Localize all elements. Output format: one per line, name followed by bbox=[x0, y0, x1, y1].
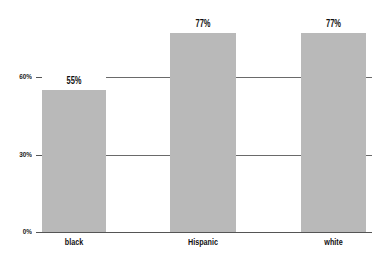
bar-black bbox=[42, 90, 106, 232]
x-label-black: black bbox=[48, 237, 99, 247]
bar-white bbox=[301, 33, 366, 232]
y-tick-label-60: 60% bbox=[8, 72, 32, 81]
x-label-hispanic: Hispanic bbox=[177, 237, 230, 247]
bar-chart: 60% 30% 0% 55% 77% 77% black Hispanic wh… bbox=[0, 0, 390, 264]
bar-hispanic bbox=[170, 33, 236, 232]
y-tick-label-0: 0% bbox=[8, 227, 32, 236]
value-label-hispanic: 77% bbox=[178, 18, 228, 29]
x-axis-baseline bbox=[36, 232, 372, 233]
y-tick-60 bbox=[36, 77, 42, 78]
value-label-white: 77% bbox=[309, 18, 358, 29]
y-tick-label-30: 30% bbox=[8, 150, 32, 159]
x-label-white: white bbox=[308, 237, 360, 247]
value-label-black: 55% bbox=[50, 75, 98, 86]
